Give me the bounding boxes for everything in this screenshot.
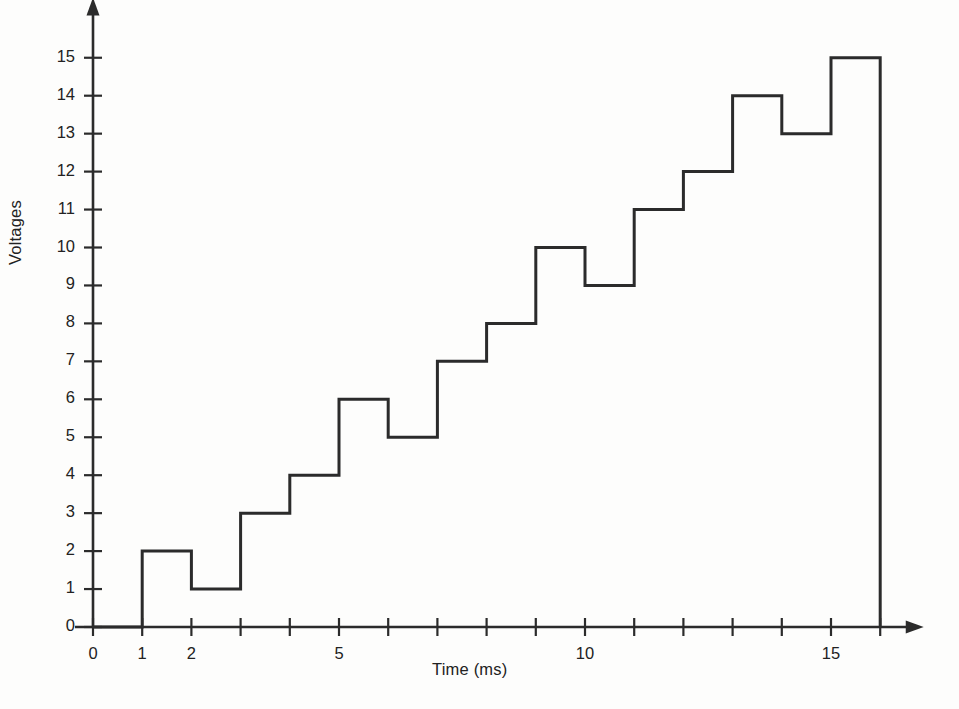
y-tick-label: 5 [45,426,75,445]
y-tick-label: 11 [45,199,75,218]
y-tick-label: 2 [45,540,75,559]
x-tick-label: 5 [324,644,354,663]
x-tick-label: 0 [78,644,108,663]
y-tick-label: 3 [45,502,75,521]
y-tick-label: 9 [45,274,75,293]
x-tick-label: 2 [176,644,206,663]
staircase-plot [0,0,959,709]
y-axis-arrowhead [87,0,100,16]
axes-group [75,0,924,634]
y-tick-label: 1 [45,578,75,597]
y-tick-label: 6 [45,388,75,407]
y-tick-label: 0 [45,616,75,635]
staircase-waveform [93,58,880,627]
y-tick-label: 4 [45,464,75,483]
y-tick-label: 13 [45,123,75,142]
x-axis-title: Time (ms) [432,660,507,679]
y-axis-title: Voltages [6,200,25,265]
chart-container: 0123456789101112131415 01251015 Voltages… [0,0,959,709]
x-tick-label: 1 [127,644,157,663]
x-tick-label: 15 [816,644,846,663]
y-tick-label: 8 [45,312,75,331]
y-tick-label: 12 [45,161,75,180]
y-tick-label: 14 [45,85,75,104]
y-tick-label: 15 [45,47,75,66]
x-tick-label: 10 [570,644,600,663]
y-tick-label: 7 [45,350,75,369]
ticks-group [84,58,880,636]
y-tick-label: 10 [45,237,75,256]
x-axis-arrowhead [906,621,924,634]
